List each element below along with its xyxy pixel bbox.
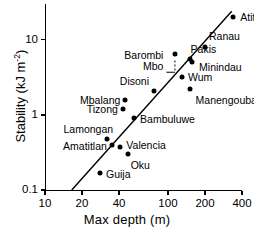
y-tick-label: 0.1 <box>0 184 44 195</box>
data-point <box>132 116 137 121</box>
x-tick-label: 40 <box>113 197 126 209</box>
x-tick <box>241 191 242 195</box>
x-tick-label: 20 <box>76 197 89 209</box>
x-tick-label: 100 <box>158 197 177 209</box>
x-tick <box>44 191 45 195</box>
data-point <box>231 15 236 20</box>
data-point <box>187 87 192 92</box>
x-tick <box>81 191 82 195</box>
x-tick-label: 200 <box>195 197 214 209</box>
x-tick <box>118 191 119 195</box>
data-point <box>125 152 130 157</box>
point-label: Valencia <box>126 140 166 151</box>
point-label: Wum <box>188 71 212 82</box>
point-label: Manengouba <box>196 95 254 106</box>
data-point <box>173 51 178 56</box>
point-label: Ranau <box>209 31 240 42</box>
point-label: BarombiMbo <box>124 50 163 72</box>
point-label: Guija <box>106 168 131 179</box>
data-point <box>120 106 125 111</box>
point-label-line2: Mbo <box>124 61 163 72</box>
data-point <box>97 170 102 175</box>
y-axis-title-exponent: -2 <box>12 54 22 62</box>
scatter-chart: 0.1110 102040100200400 AtitlanRanauBarom… <box>0 0 254 234</box>
point-label: Disoni <box>120 75 149 86</box>
x-axis-line <box>45 190 242 191</box>
x-tick-label: 400 <box>232 197 251 209</box>
point-label: Atitlan <box>240 12 254 23</box>
point-label: Pakis <box>191 44 217 55</box>
x-tick <box>204 191 205 195</box>
data-point <box>118 145 123 150</box>
y-axis-title-close: ) <box>13 50 28 54</box>
point-label: Amatitlan <box>63 140 107 151</box>
data-point <box>123 97 128 102</box>
data-point <box>152 88 157 93</box>
point-label: Lamongan <box>63 123 113 134</box>
point-label: Tizong <box>87 103 118 114</box>
data-point <box>179 74 184 79</box>
x-tick <box>167 191 168 195</box>
x-tick-label: 10 <box>39 197 52 209</box>
x-axis-title: Max depth (m) <box>0 212 254 227</box>
y-axis-line <box>45 4 46 191</box>
y-axis-title-base: Stability (kJ m <box>13 62 28 143</box>
point-label: Oku <box>131 160 150 171</box>
y-axis-title: Stability (kJ m-2) <box>12 21 28 171</box>
data-point <box>190 59 195 64</box>
data-point <box>109 142 114 147</box>
point-label: Bambuluwe <box>140 114 195 125</box>
